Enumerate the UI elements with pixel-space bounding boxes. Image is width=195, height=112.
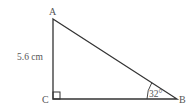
angle-b-label: 32° <box>149 89 163 99</box>
vertex-label-a: A <box>49 6 57 17</box>
triangle-abc <box>53 19 177 99</box>
side-ac-length-label: 5.6 cm <box>17 52 43 62</box>
vertex-label-b: B <box>179 94 186 105</box>
vertex-label-c: C <box>42 94 49 105</box>
right-angle-marker <box>53 92 60 99</box>
triangle-diagram: A C B 5.6 cm 32° <box>0 0 195 112</box>
